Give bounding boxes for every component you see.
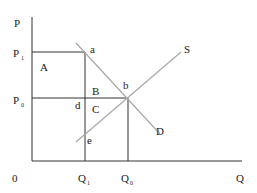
- supply-demand-diagram: P Q 0 P 1 P 0 Q 1 Q 0 S D a b d e A B C: [0, 0, 257, 193]
- region-c-label: C: [92, 103, 99, 115]
- q1-subscript: 1: [87, 180, 90, 186]
- p0-subscript: 0: [21, 102, 24, 108]
- point-d-label: d: [75, 99, 81, 111]
- region-a-label: A: [40, 61, 48, 73]
- q0-subscript: 0: [130, 180, 133, 186]
- q1-label: Q: [78, 172, 86, 184]
- supply-label: S: [184, 43, 190, 55]
- origin-label: 0: [12, 172, 18, 184]
- p1-subscript: 1: [21, 55, 24, 61]
- demand-curve: [76, 43, 160, 134]
- p1-label: P: [13, 47, 19, 59]
- p0-label: P: [13, 94, 19, 106]
- point-a-label: a: [90, 43, 95, 55]
- demand-label: D: [156, 125, 164, 137]
- q0-label: Q: [121, 172, 129, 184]
- region-b-label: B: [92, 85, 99, 97]
- x-axis-label: Q: [236, 172, 244, 184]
- y-axis-label: P: [14, 17, 20, 29]
- point-e-label: e: [87, 134, 92, 146]
- point-b-label: b: [123, 79, 129, 91]
